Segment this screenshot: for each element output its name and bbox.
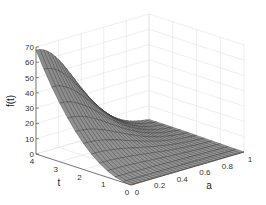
surface-plot: 0102030405060704321000.20.40.60.81 f(t) … [0,0,266,205]
a-tick-label: 0 [135,188,140,197]
a-tick-label: 0.4 [177,175,189,184]
t-tick-label: 2 [77,173,82,182]
a-tick-label: 0.8 [222,162,234,171]
a-axis-label: a [206,180,212,191]
t-tick-label: 3 [54,165,59,174]
z-tick-label: 20 [25,119,34,128]
z-tick-label: 70 [25,43,34,52]
z-tick-label: 30 [25,104,34,113]
t-tick-label: 0 [125,188,130,197]
t-tick-label: 4 [30,157,35,166]
z-tick-label: 40 [25,89,34,98]
gridline [36,14,149,47]
z-tick-label: 60 [25,58,34,67]
z-tick-label: 10 [25,135,34,144]
a-tick-label: 0.2 [154,181,166,190]
z-axis-label: f(t) [5,95,16,107]
a-tick-label: 0.6 [199,168,211,177]
z-tick-label: 50 [25,74,34,83]
surface-mesh [36,49,244,185]
a-tick-label: 1 [248,155,253,164]
t-axis-label: t [58,177,61,188]
t-tick-label: 1 [101,180,106,189]
